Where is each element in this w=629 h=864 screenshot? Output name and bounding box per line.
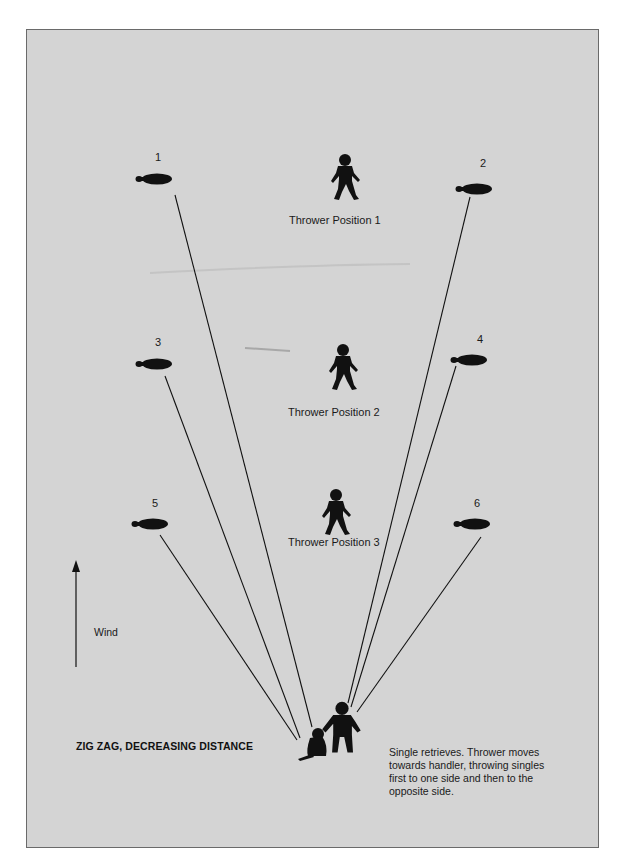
bumper-number-1: 1 [148,151,168,163]
bumper-number-2: 2 [473,157,493,169]
dog-icon [298,728,327,761]
line-bumper-6 [357,537,481,712]
wind-label: Wind [94,626,118,638]
bumper-icon [132,519,169,530]
thrower-position-1-label: Thrower Position 1 [289,214,381,226]
person-icon [322,489,351,535]
diagram-canvas [0,0,629,864]
line-bumper-5 [160,535,297,740]
bumper-number-4: 4 [470,333,490,345]
line-bumper-1 [175,195,312,727]
bumper-number-3: 3 [148,336,168,348]
diagram-description: Single retrieves. Thrower moves towards … [389,746,559,798]
line-bumper-3 [165,376,300,738]
handler-icon [322,702,361,753]
person-icon [331,154,360,200]
bumper-icon [451,355,488,366]
person-icon [329,344,358,390]
diagram-title: ZIG ZAG, DECREASING DISTANCE [76,740,253,752]
smudge [245,348,290,351]
wind-arrow-icon [72,560,80,667]
bumper-number-5: 5 [145,497,165,509]
bumper-icon [456,184,493,195]
bumper-icon [454,519,491,530]
retrieve-lines [160,195,481,740]
smudge [150,264,410,273]
line-bumper-2 [348,197,470,703]
bumper-number-6: 6 [467,497,487,509]
thrower-position-2-label: Thrower Position 2 [288,406,380,418]
thrower-position-3-label: Thrower Position 3 [288,536,380,548]
bumper-icon [136,174,173,185]
bumper-icon [136,359,173,370]
